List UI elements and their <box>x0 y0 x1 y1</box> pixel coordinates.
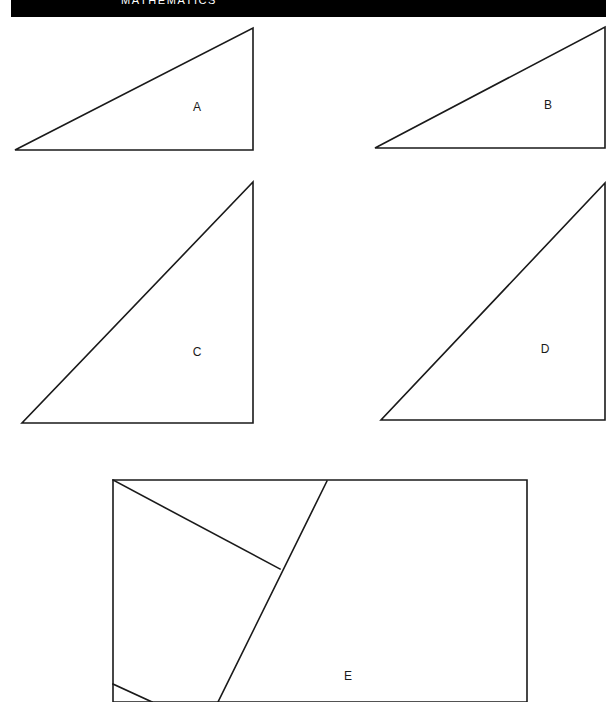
figure-d-triangle <box>381 183 605 420</box>
figure-e-cut-line-1 <box>113 480 280 569</box>
figure-a-label: A <box>193 101 201 113</box>
figure-d-label: D <box>541 343 550 355</box>
figure-e-cut-line-3 <box>113 684 152 702</box>
figure-a-triangle <box>15 28 253 150</box>
figure-e-label: E <box>344 670 352 682</box>
figure-b-label: B <box>544 99 552 111</box>
figures-canvas <box>0 0 614 702</box>
figure-c-label: C <box>193 346 202 358</box>
figure-e-cut-line-2 <box>218 481 327 702</box>
figure-c-triangle <box>22 182 253 423</box>
figures-area: A B C D E <box>0 0 614 702</box>
figure-b-triangle <box>375 27 605 148</box>
worksheet-page: MATHEMATICS A B C D E <box>0 0 614 702</box>
